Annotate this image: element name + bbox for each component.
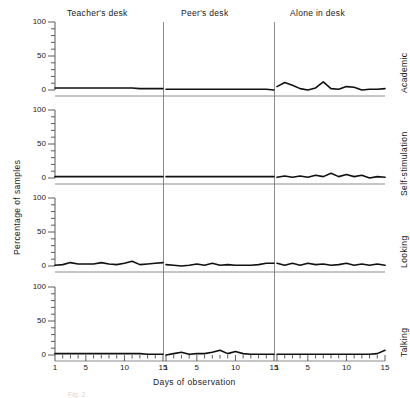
y-tick-label: 100 bbox=[18, 282, 46, 291]
y-tick-label: 50 bbox=[18, 316, 46, 325]
data-line bbox=[277, 173, 385, 178]
y-tick-label: 0 bbox=[18, 173, 46, 182]
data-line bbox=[166, 263, 274, 266]
x-tick-label: 5 bbox=[298, 363, 318, 372]
x-tick-label: 5 bbox=[76, 363, 96, 372]
chart-canvas bbox=[0, 0, 410, 398]
y-tick-label: 100 bbox=[18, 17, 46, 26]
y-tick-label: 0 bbox=[18, 85, 46, 94]
x-tick-label: 1 bbox=[156, 363, 176, 372]
data-line bbox=[166, 89, 274, 90]
x-tick-label: 1 bbox=[267, 363, 287, 372]
data-line bbox=[277, 263, 385, 265]
y-tick-label: 50 bbox=[18, 51, 46, 60]
y-tick-label: 50 bbox=[18, 139, 46, 148]
data-line bbox=[55, 88, 163, 89]
y-tick-label: 0 bbox=[18, 350, 46, 359]
x-tick-label: 1 bbox=[45, 363, 65, 372]
y-tick-label: 100 bbox=[18, 193, 46, 202]
x-tick-label: 10 bbox=[336, 363, 356, 372]
data-line bbox=[166, 350, 274, 355]
data-line bbox=[55, 354, 163, 355]
data-line bbox=[55, 261, 163, 265]
y-tick-label: 100 bbox=[18, 105, 46, 114]
x-tick-label: 15 bbox=[375, 363, 395, 372]
y-tick-label: 0 bbox=[18, 261, 46, 270]
x-tick-label: 10 bbox=[114, 363, 134, 372]
x-tick-label: 10 bbox=[225, 363, 245, 372]
y-tick-label: 50 bbox=[18, 227, 46, 236]
x-tick-label: 5 bbox=[187, 363, 207, 372]
data-line bbox=[277, 350, 385, 354]
data-line bbox=[277, 82, 385, 90]
